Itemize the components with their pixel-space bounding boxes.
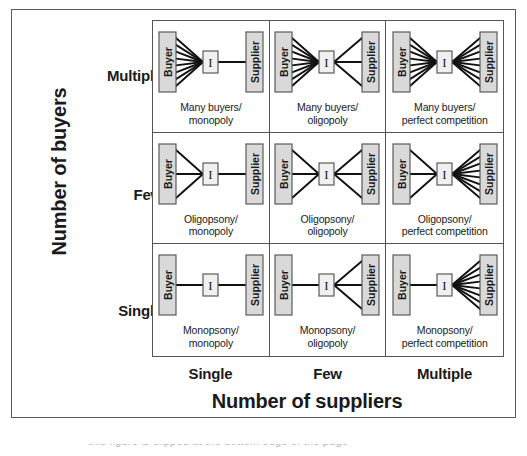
matrix-cell[interactable]: Buyer Supplier I Monopsony/ oligopoly xyxy=(270,244,387,356)
svg-text:Buyer: Buyer xyxy=(161,47,173,77)
svg-text:Supplier: Supplier xyxy=(248,153,260,195)
svg-text:Buyer: Buyer xyxy=(395,270,407,300)
cell-caption: Monopsony/ perfect competition xyxy=(400,324,490,349)
svg-text:I: I xyxy=(208,278,212,293)
svg-text:I: I xyxy=(442,55,446,70)
matrix-cell[interactable]: Buyer Supplier I Many buyers/ perfect co… xyxy=(386,21,503,133)
cell-caption: Oligopsony/ perfect competition xyxy=(400,213,490,238)
svg-text:I: I xyxy=(442,167,446,182)
matrix-cell[interactable]: Buyer Supplier I Many buyers/ monopoly xyxy=(153,21,270,133)
matrix-cell[interactable]: Buyer Supplier I Oligopsony/ perfect com… xyxy=(386,133,503,245)
svg-text:Supplier: Supplier xyxy=(248,41,260,83)
svg-text:Buyer: Buyer xyxy=(395,159,407,189)
svg-text:Supplier: Supplier xyxy=(482,264,494,306)
clipped-footer-text: this figure is clipped at the bottom edg… xyxy=(88,444,348,447)
clipped-footer-caption: this figure is clipped at the bottom edg… xyxy=(0,444,527,456)
cell-caption: Monopsony/ oligopoly xyxy=(298,324,358,349)
svg-text:I: I xyxy=(325,55,329,70)
svg-text:I: I xyxy=(208,167,212,182)
cell-caption: Oligopsony/ monopoly xyxy=(182,213,240,238)
svg-text:Supplier: Supplier xyxy=(248,264,260,306)
y-axis-title: Number of buyers xyxy=(48,62,71,282)
matrix-cell[interactable]: Buyer Supplier I Monopsony/ perfect comp… xyxy=(386,244,503,356)
cell-diagram: Buyer Supplier I xyxy=(389,252,501,318)
cell-diagram: Buyer Supplier I xyxy=(155,141,267,207)
cell-diagram: Buyer Supplier I xyxy=(389,29,501,95)
svg-text:Buyer: Buyer xyxy=(278,270,290,300)
svg-text:Buyer: Buyer xyxy=(395,47,407,77)
svg-text:Supplier: Supplier xyxy=(365,153,377,195)
y-tick-label-few: Few xyxy=(72,186,162,203)
cell-caption: Many buyers/ perfect competition xyxy=(400,101,490,126)
y-tick-label-multiple: Multiple xyxy=(72,67,162,84)
x-axis-title: Number of suppliers xyxy=(112,390,502,413)
cell-diagram: Buyer Supplier I xyxy=(271,141,383,207)
cell-caption: Oligopsony/ oligopoly xyxy=(299,213,357,238)
svg-text:I: I xyxy=(325,278,329,293)
svg-text:Supplier: Supplier xyxy=(365,41,377,83)
cell-diagram: Buyer Supplier I xyxy=(271,252,383,318)
cell-diagram: Buyer Supplier I xyxy=(389,141,501,207)
svg-text:Supplier: Supplier xyxy=(482,153,494,195)
figure-frame: Number of buyers Multiple Few Single Buy… xyxy=(11,9,516,418)
x-tick-label-single: Single xyxy=(152,365,269,382)
matrix-cell[interactable]: Buyer Supplier I Oligopsony/ monopoly xyxy=(153,133,270,245)
cell-diagram: Buyer Supplier I xyxy=(155,29,267,95)
y-tick-label-single: Single xyxy=(72,302,162,319)
svg-text:I: I xyxy=(208,55,212,70)
cell-diagram: Buyer Supplier I xyxy=(271,29,383,95)
matrix-cell[interactable]: Buyer Supplier I Monopsony/ monopoly xyxy=(153,244,270,356)
matrix-cell[interactable]: Buyer Supplier I Many buyers/ oligopoly xyxy=(270,21,387,133)
svg-text:Buyer: Buyer xyxy=(161,159,173,189)
x-tick-label-few: Few xyxy=(269,365,386,382)
x-tick-label-multiple: Multiple xyxy=(386,365,503,382)
svg-text:Buyer: Buyer xyxy=(161,270,173,300)
svg-text:I: I xyxy=(325,167,329,182)
cell-caption: Many buyers/ oligopoly xyxy=(295,101,360,126)
matrix-cell[interactable]: Buyer Supplier I Oligopsony/ oligopoly xyxy=(270,133,387,245)
svg-text:I: I xyxy=(442,278,446,293)
market-structure-matrix: Buyer Supplier I Many buyers/ monopoly B… xyxy=(152,20,504,357)
cell-diagram: Buyer Supplier I xyxy=(155,252,267,318)
cell-caption: Monopsony/ monopoly xyxy=(181,324,241,349)
svg-text:Supplier: Supplier xyxy=(482,41,494,83)
svg-text:Buyer: Buyer xyxy=(278,159,290,189)
svg-text:Buyer: Buyer xyxy=(278,47,290,77)
svg-text:Supplier: Supplier xyxy=(365,264,377,306)
cell-caption: Many buyers/ monopoly xyxy=(178,101,243,126)
